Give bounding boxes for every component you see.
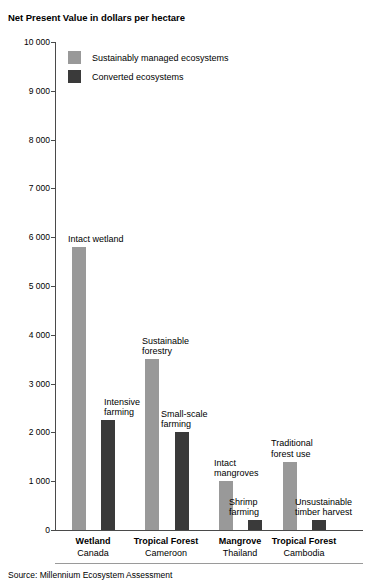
y-axis-tick-mark: [51, 481, 55, 482]
y-axis-tick-mark: [51, 188, 55, 189]
bottom-rule: [55, 563, 363, 564]
bar: [101, 420, 115, 530]
y-axis-tick-label: 0: [0, 526, 50, 535]
y-axis-tick-label: 9 000: [0, 87, 50, 96]
bar-annotation: Intact mangroves: [214, 458, 259, 479]
category-label: Tropical ForestCambodia: [249, 536, 359, 559]
bar-annotation: Traditional forest use: [271, 438, 313, 459]
x-axis-baseline: [55, 530, 363, 531]
y-axis-tick-label: 7 000: [0, 184, 50, 193]
y-axis-tick-label: 5 000: [0, 282, 50, 291]
bar-annotation: Unsustainable timber harvest: [295, 497, 352, 518]
legend-swatch-converted: [68, 70, 81, 83]
bar: [312, 520, 326, 530]
y-axis-tick-mark: [51, 335, 55, 336]
category-place: Cambodia: [249, 548, 359, 560]
bar-annotation: Intact wetland: [68, 234, 124, 245]
legend-item-converted: Converted ecosystems: [68, 67, 229, 86]
bar-annotation: Intensive farming: [104, 397, 140, 418]
y-axis-tick-label: 4 000: [0, 331, 50, 340]
chart-container: Net Present Value in dollars per hectare…: [0, 0, 368, 584]
y-axis-tick-label: 3 000: [0, 380, 50, 389]
y-axis-tick-label: 1 000: [0, 477, 50, 486]
bar-annotation: Small-scale farming: [161, 409, 208, 430]
bar-annotation: Sustainable forestry: [142, 336, 189, 357]
chart-title: Net Present Value in dollars per hectare: [8, 12, 185, 23]
chart-source: Source: Millennium Ecosystem Assessment: [8, 570, 172, 580]
legend-item-sustainable: Sustainably managed ecosystems: [68, 48, 229, 67]
y-axis-tick-mark: [51, 140, 55, 141]
y-axis-tick-label: 2 000: [0, 428, 50, 437]
y-axis-tick-label: 10 000: [0, 38, 50, 47]
y-axis-tick-mark: [51, 432, 55, 433]
category-name: Tropical Forest: [249, 536, 359, 548]
y-axis-tick-mark: [51, 91, 55, 92]
legend-label-sustainable: Sustainably managed ecosystems: [92, 53, 229, 63]
legend-label-converted: Converted ecosystems: [92, 72, 184, 82]
y-axis-tick-mark: [51, 237, 55, 238]
bar: [175, 432, 189, 530]
y-axis-tick-mark: [51, 286, 55, 287]
y-axis-tick-mark: [51, 42, 55, 43]
y-axis-tick-label: 8 000: [0, 136, 50, 145]
y-axis-tick-mark: [51, 384, 55, 385]
bar-annotation: Shrimp farming: [229, 497, 259, 518]
legend-swatch-sustainable: [68, 51, 81, 64]
y-axis-tick-mark: [51, 530, 55, 531]
bar: [248, 520, 262, 530]
chart-legend: Sustainably managed ecosystems Converted…: [68, 48, 229, 86]
bar: [145, 359, 159, 530]
y-axis-tick-label: 6 000: [0, 233, 50, 242]
bar: [72, 247, 86, 530]
